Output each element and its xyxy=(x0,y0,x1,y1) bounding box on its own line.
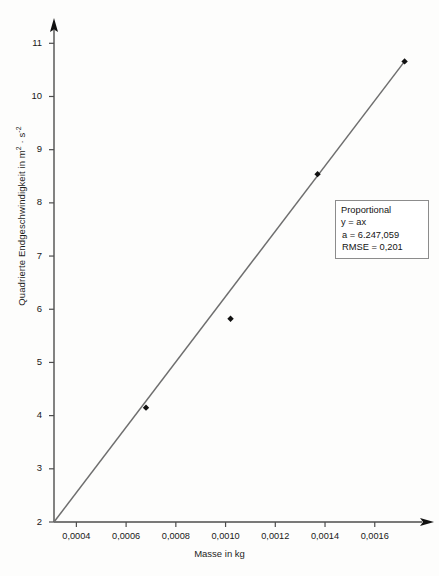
y-axis-arrowhead xyxy=(50,18,58,32)
y-axis-title: Quadrierte Endgeschwindigkeit in m2 · s-… xyxy=(15,91,27,341)
x-tick-marks xyxy=(76,522,374,527)
x-axis-arrowhead xyxy=(420,518,434,526)
y-tick-label: 5 xyxy=(16,356,42,367)
y-tick-label: 3 xyxy=(16,462,42,473)
fit-info-box: Proportional y = ax a = 6.247,059 RMSE =… xyxy=(335,200,429,259)
y-tick-label: 2 xyxy=(16,516,42,527)
proportional-fit-line xyxy=(54,61,405,522)
y-axis-title-exp-m: 2 xyxy=(15,146,22,150)
fit-model-label: Proportional xyxy=(341,204,424,216)
x-axis-title: Masse in kg xyxy=(0,548,439,559)
fit-rmse-label: RMSE = 0,201 xyxy=(341,241,424,253)
data-point-marker xyxy=(227,316,233,322)
fit-equation-label: y = ax xyxy=(341,216,424,228)
y-axis-title-exp-s: -2 xyxy=(15,126,22,132)
y-tick-marks xyxy=(49,43,54,522)
x-tick-label: 0,0016 xyxy=(345,531,405,541)
y-tick-label: 4 xyxy=(16,409,42,420)
data-point-marker xyxy=(143,404,149,410)
y-axis-title-mid: · s xyxy=(16,133,27,147)
fit-coefficient-label: a = 6.247,059 xyxy=(341,229,424,241)
y-axis-title-main: Quadrierte Endgeschwindigkeit in m xyxy=(16,150,27,305)
chart-canvas: 234567891011 0,00040,00060,00080,00100,0… xyxy=(0,0,439,576)
y-tick-label: 11 xyxy=(16,37,42,48)
plot-area xyxy=(0,0,439,576)
